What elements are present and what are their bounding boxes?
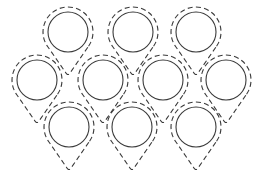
cell-top-1 [43,7,93,75]
solid-circle [112,107,152,147]
solid-circle [206,60,246,100]
solid-circle [143,60,183,100]
solid-circle [49,107,89,147]
cell-bottom-1 [44,102,94,170]
solid-circle [113,12,153,52]
solid-circle [48,12,88,52]
cells-group [12,7,251,170]
cell-bottom-2 [107,102,157,170]
solid-circle [83,60,123,100]
solid-circle [17,60,57,100]
cell-middle-1 [12,55,62,123]
cell-bottom-3 [171,102,221,170]
cell-middle-2 [78,55,128,123]
cell-middle-4 [201,55,251,123]
solid-circle [176,12,216,52]
solid-circle [176,107,216,147]
circle-packing-diagram [0,0,263,180]
